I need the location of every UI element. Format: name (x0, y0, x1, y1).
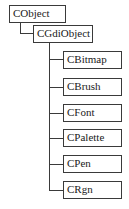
node-crgn: CRgn (63, 181, 122, 199)
connector-crgn (49, 190, 63, 191)
connector-cbitmap (49, 59, 63, 60)
connector-cfont (49, 113, 63, 114)
node-cfont: CFont (63, 104, 122, 122)
connector-cgdiobject-trunk (49, 42, 50, 191)
node-cgdiobject: CGdiObject (33, 25, 93, 43)
node-cpen: CPen (63, 155, 122, 173)
node-cbrush: CBrush (63, 78, 122, 96)
connector-cpalette (49, 138, 63, 139)
connector-cobject-horizontal (20, 33, 33, 34)
connector-cbrush (49, 87, 63, 88)
node-cpalette: CPalette (63, 129, 122, 147)
node-cbitmap: CBitmap (63, 51, 122, 69)
node-cobject: CObject (9, 5, 66, 23)
connector-cpen (49, 164, 63, 165)
